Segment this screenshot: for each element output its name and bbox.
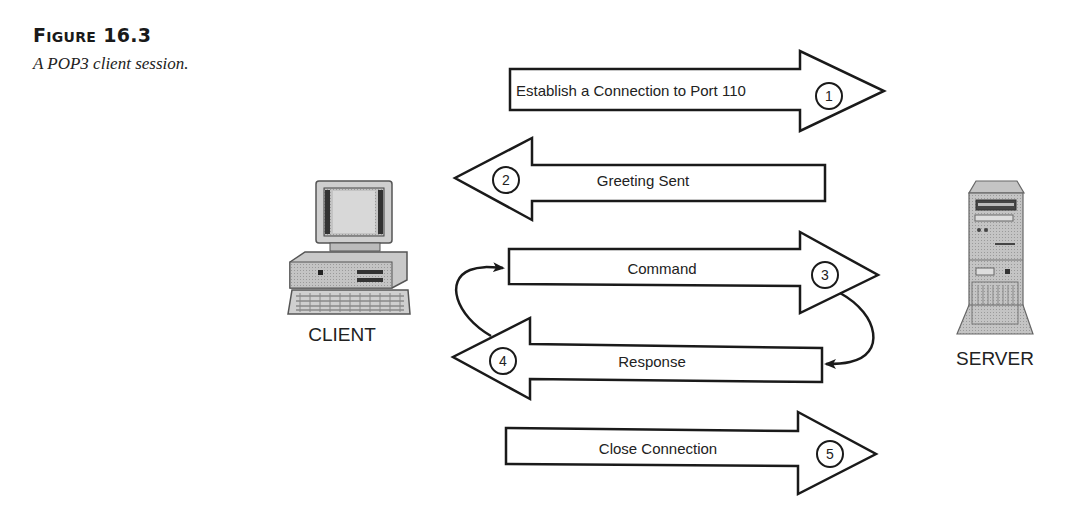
step-number-1: 1 [825, 88, 833, 104]
step-number-5: 5 [826, 446, 834, 462]
step-label-1: Establish a Connection to Port 110 [516, 82, 746, 99]
step-arrow-2: 2 Greeting Sent [455, 138, 825, 220]
server-label: SERVER [956, 348, 1034, 369]
step-label-3: Command [627, 260, 696, 277]
step-arrow-1: Establish a Connection to Port 110 1 [510, 51, 884, 131]
step-arrow-4: 4 Response [453, 318, 822, 399]
step-label-2: Greeting Sent [597, 172, 690, 189]
desktop-computer-icon [288, 181, 410, 314]
step-number-3: 3 [821, 267, 829, 283]
step-arrow-3: Command 3 [509, 232, 878, 313]
step-number-4: 4 [499, 353, 507, 369]
loop-curve-left-icon [456, 267, 503, 336]
loop-curve-right-icon [826, 293, 873, 364]
client-label: CLIENT [308, 324, 376, 345]
tower-server-icon [957, 181, 1033, 334]
step-arrow-5: Close Connection 5 [506, 412, 876, 494]
step-label-5: Close Connection [599, 440, 717, 457]
step-number-2: 2 [502, 172, 510, 188]
step-label-4: Response [618, 353, 686, 370]
